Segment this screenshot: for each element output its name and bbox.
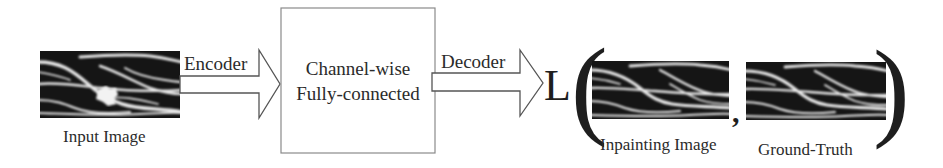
loss-close-paren: ) <box>873 28 910 150</box>
inpainting-image-label: Inpainting Image <box>600 135 717 154</box>
fc-layer-box <box>281 8 435 153</box>
loss-symbol: L <box>544 61 571 110</box>
ground-truth-label: Ground-Truth <box>758 140 853 159</box>
input-image-label: Input Image <box>63 127 146 146</box>
fc-layer-line2: Fully-connected <box>296 83 420 104</box>
encoder-decoder-diagram: Input Image Encoder Channel-wise Fully-c… <box>0 0 943 168</box>
inpainting-image <box>590 61 732 119</box>
loss-separator: , <box>732 95 740 128</box>
decoder-label: Decoder <box>441 51 506 72</box>
input-image <box>38 51 182 118</box>
ground-truth-image <box>744 62 888 120</box>
encoder-label: Encoder <box>184 53 248 74</box>
fc-layer-line1: Channel-wise <box>306 58 410 79</box>
